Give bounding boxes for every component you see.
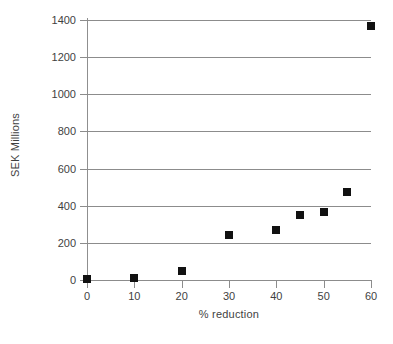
data-point (367, 22, 375, 30)
x-tick-label: 50 (304, 290, 344, 302)
y-tick-mark (80, 94, 87, 95)
y-tick-label: 1400 (30, 14, 76, 26)
x-tick-mark (182, 281, 183, 288)
y-tick-mark (80, 20, 87, 21)
x-tick-label: 40 (256, 290, 296, 302)
y-tick-label: 0 (30, 274, 76, 286)
data-point (296, 211, 304, 219)
y-tick-mark (80, 57, 87, 58)
x-tick-mark (229, 281, 230, 288)
y-tick-label: 400 (30, 200, 76, 212)
y-tick-label: 800 (30, 125, 76, 137)
y-tick-label: 1200 (30, 51, 76, 63)
data-point (178, 267, 186, 275)
x-axis-title: % reduction (87, 308, 371, 320)
x-tick-label: 60 (351, 290, 391, 302)
x-tick-mark (134, 281, 135, 288)
x-tick-label: 30 (209, 290, 249, 302)
data-point (83, 275, 91, 283)
gridline (87, 206, 371, 207)
y-tick-mark (80, 206, 87, 207)
x-tick-label: 0 (67, 290, 107, 302)
y-tick-label: 200 (30, 237, 76, 249)
data-point (343, 188, 351, 196)
y-tick-mark (80, 243, 87, 244)
y-axis-title: SEK Millions (0, 0, 30, 290)
scatter-chart: SEK Millions 0200400600800100012001400 0… (0, 0, 393, 344)
data-point (225, 231, 233, 239)
data-point (272, 226, 280, 234)
gridline (87, 169, 371, 170)
x-tick-mark (276, 281, 277, 288)
data-point (130, 274, 138, 282)
y-tick-label: 600 (30, 163, 76, 175)
x-tick-label: 10 (114, 290, 154, 302)
plot-area (87, 20, 371, 280)
y-tick-mark (80, 131, 87, 132)
gridline (87, 131, 371, 132)
gridline (87, 57, 371, 58)
gridline (87, 243, 371, 244)
x-tick-mark (371, 281, 372, 288)
data-point (320, 208, 328, 216)
gridline (87, 20, 371, 21)
gridline (87, 94, 371, 95)
y-tick-mark (80, 169, 87, 170)
x-tick-mark (324, 281, 325, 288)
x-tick-label: 20 (162, 290, 202, 302)
y-axis-title-label: SEK Millions (9, 113, 21, 177)
y-tick-label: 1000 (30, 88, 76, 100)
